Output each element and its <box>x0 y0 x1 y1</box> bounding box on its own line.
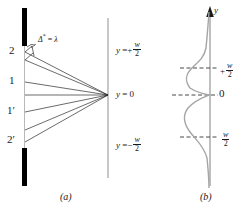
screen-label-plus-w-over-2: y =+w2 <box>116 41 141 59</box>
ray-2b <box>25 60 108 95</box>
ray-label-1: 1 <box>9 75 15 86</box>
equals-mid: = <box>122 89 127 99</box>
panel-a-canvas <box>0 0 162 216</box>
panel-a-ray-diagram: 2 1 1′ 2′ Δ* = λ y =+w2 y = 0 y =−w2 (a) <box>0 0 162 216</box>
fraction-w-2-top: w2 <box>133 41 140 59</box>
panel-b-intensity-plot: y +w2 0 w2 (b) <box>162 0 243 216</box>
delta-equals: = <box>48 35 53 44</box>
tick-denominator-top: 2 <box>226 71 233 79</box>
pd-seg-1 <box>25 46 32 52</box>
ray-2-prime <box>25 95 108 142</box>
tick-label-minus-w-over-2: w2 <box>221 131 229 149</box>
aperture-bar-bottom <box>22 148 27 186</box>
path-difference-segments <box>25 44 35 60</box>
tick-label-plus-w-over-2: +w2 <box>220 62 233 80</box>
lambda-symbol: λ <box>54 35 57 44</box>
screen-label-minus-w-over-2: y =−w2 <box>116 136 141 154</box>
ray-1-prime <box>25 95 108 112</box>
denominator-bot: 2 <box>133 145 140 153</box>
screen-label-zero: y = 0 <box>116 90 134 99</box>
delta-superscript: * <box>43 33 46 39</box>
sign-top: + <box>127 45 132 55</box>
y-symbol-mid: y <box>116 89 120 99</box>
pd-seg-3 <box>32 46 34 56</box>
value-zero-mid: 0 <box>130 89 135 99</box>
ray-label-1-prime: 1′ <box>7 105 15 116</box>
tick-denominator-bot: 2 <box>222 140 229 148</box>
panel-b-canvas <box>162 0 243 216</box>
sign-bot: − <box>127 140 132 150</box>
tick-fraction-bot: w2 <box>222 131 229 149</box>
y-axis-label: y <box>214 6 218 15</box>
y-axis-arrowhead <box>206 6 214 17</box>
aperture-bar-top <box>22 8 27 46</box>
caption-b: (b) <box>200 192 212 202</box>
tick-label-zero: 0 <box>219 88 225 99</box>
denominator-top: 2 <box>133 50 140 58</box>
ray-label-2-prime: 2′ <box>7 134 15 145</box>
path-difference-label: Δ* = λ <box>38 33 58 44</box>
tick-sign-top: + <box>220 66 225 76</box>
caption-a: (a) <box>60 192 72 202</box>
ray-bundle <box>25 52 108 142</box>
ray-label-2: 2 <box>9 45 15 56</box>
optics-figure: 2 1 1′ 2′ Δ* = λ y =+w2 y = 0 y =−w2 (a) <box>0 0 243 216</box>
y-symbol-top: y <box>116 45 120 55</box>
fraction-w-2-bot: w2 <box>133 136 140 154</box>
amplitude-curve <box>184 12 209 188</box>
y-symbol-bot: y <box>116 140 120 150</box>
ray-2-prime-b <box>25 95 108 130</box>
tick-fraction-top: w2 <box>226 62 233 80</box>
